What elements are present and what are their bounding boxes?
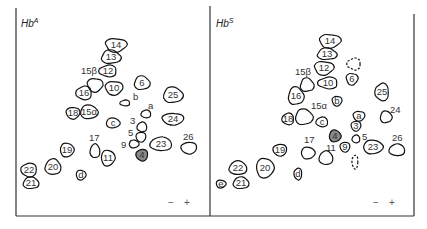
annotation-label: 3	[130, 115, 135, 126]
spot-label: 13	[322, 48, 333, 59]
spot-label: b	[334, 95, 339, 106]
spot	[352, 135, 360, 143]
spots-hba: 14131261610251815α24c23194112022d21	[21, 39, 197, 189]
annotation-label: 26	[392, 132, 403, 143]
spot-label: d	[78, 169, 83, 180]
spot-label: 24	[168, 113, 179, 124]
spot	[141, 110, 151, 118]
spot	[129, 140, 139, 148]
spot-label: 21	[236, 177, 247, 188]
spot-label: 20	[48, 161, 59, 172]
spot	[301, 147, 315, 159]
spot-label: 25	[377, 86, 388, 97]
spot-label: 16	[79, 87, 90, 98]
spot-label: 6	[139, 77, 144, 88]
spot-label: 20	[260, 162, 271, 173]
spot-label: 9	[342, 141, 347, 152]
spot-label: 22	[233, 162, 244, 173]
spot	[352, 155, 358, 169]
spot-label: 18	[283, 113, 294, 124]
spot-label: 16	[291, 90, 302, 101]
annotation-label: 9	[121, 139, 126, 150]
spot	[87, 79, 103, 93]
spot-label: 10	[109, 82, 120, 93]
annotation-label: 15β	[81, 65, 98, 76]
spot-label: 19	[62, 144, 73, 155]
spot-label: 14	[111, 39, 122, 50]
spot-label: 23	[156, 138, 167, 149]
spot	[90, 144, 100, 158]
fingerprint-diagram: HbA 14131261610251815α24c23194112022d21 …	[0, 0, 427, 229]
spot-label: 14	[325, 35, 336, 46]
spot	[137, 122, 147, 132]
annotation-label: 24	[390, 104, 401, 115]
spot	[295, 109, 313, 125]
spot-label: 11	[103, 152, 113, 163]
spot-label: 25	[168, 89, 179, 100]
polarity-plus: +	[389, 197, 395, 208]
annotation-label: 17	[304, 134, 315, 145]
spot	[389, 144, 405, 156]
spot-label: 12	[319, 62, 330, 73]
annotation-label: 15α	[311, 100, 328, 111]
spot-label: 22	[24, 164, 35, 175]
spot-label: 13	[106, 51, 117, 62]
spot-label: 23	[368, 141, 379, 152]
panel-hbs: HbS 1413121061625b18ac34923192022de21 15…	[216, 17, 405, 208]
spot-label: 3	[353, 120, 358, 131]
panel-title-hba: HbA	[21, 17, 39, 29]
spot-label: c	[111, 117, 116, 128]
polarity-minus: −	[373, 197, 379, 208]
annotation-label: 15β	[295, 66, 312, 77]
spot-label: 12	[103, 65, 114, 76]
polarity-plus: +	[184, 197, 190, 208]
spot-label: c	[320, 116, 325, 127]
spot	[120, 100, 130, 106]
spot	[181, 142, 197, 154]
spots-hbs: 1413121061625b18ac34923192022de21	[216, 34, 404, 189]
spot	[347, 58, 360, 70]
spot-label: 4	[332, 130, 337, 141]
annotation-label: a	[148, 100, 154, 111]
panel-hba: HbA 14131261610251815α24c23194112022d21 …	[21, 17, 197, 208]
spot-label: 6	[349, 73, 354, 84]
annotation-label: 11	[326, 142, 336, 153]
polarity-minus: −	[168, 197, 174, 208]
annotation-label: 17	[89, 132, 100, 143]
annotation-label: 26	[183, 131, 194, 142]
spot-label: 18	[68, 107, 79, 118]
spot-label: e	[218, 178, 223, 189]
spot-label: 15α	[81, 106, 98, 117]
annotation-label: 5	[362, 131, 367, 142]
spot-label: 4	[139, 149, 144, 160]
spot-label: d	[295, 168, 300, 179]
panel-title-hbs: HbS	[216, 17, 234, 29]
spot	[300, 78, 314, 92]
spot-label: 10	[323, 77, 334, 88]
annotation-label: 5	[128, 127, 133, 138]
spot-label: 21	[26, 177, 37, 188]
annotation-label: b	[133, 91, 138, 102]
spot-label: 19	[275, 144, 286, 155]
